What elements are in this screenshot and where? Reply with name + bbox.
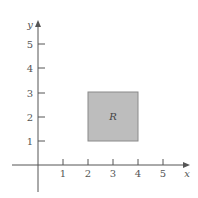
x-axis-label: x [184, 168, 190, 179]
y-axis-arrow-icon [35, 20, 41, 27]
x-tick-label-4: 4 [135, 168, 141, 179]
y-tick-label-3: 3 [27, 88, 33, 99]
y-tick-label-2: 2 [27, 112, 33, 123]
y-axis-label: y [26, 19, 33, 30]
x-ticks [63, 159, 163, 165]
y-ticks [38, 44, 45, 141]
region-label: R [108, 111, 117, 122]
y-tick-label-1: 1 [27, 136, 33, 147]
x-tick-label-2: 2 [85, 168, 91, 179]
coordinate-diagram: R x y 1 2 3 4 5 1 2 3 [0, 0, 198, 198]
plot-canvas: R x y 1 2 3 4 5 1 2 3 [0, 0, 198, 198]
y-tick-label-4: 4 [27, 63, 33, 74]
x-tick-label-3: 3 [110, 168, 116, 179]
y-tick-label-5: 5 [27, 39, 33, 50]
x-tick-label-1: 1 [60, 168, 66, 179]
x-tick-label-5: 5 [160, 168, 166, 179]
